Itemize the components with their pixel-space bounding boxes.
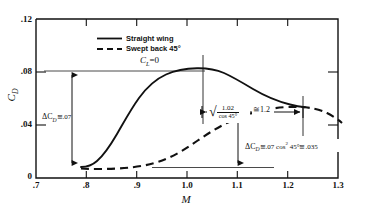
annotation-delta-cd-right: ΔCD≅.07 cos2 45°≅.035 (245, 141, 318, 153)
delta-left-symbol: ΔC (42, 112, 52, 121)
mach-shift-denominator: cos 45° (217, 113, 239, 120)
y-axis-title-sub: D (11, 88, 20, 94)
ytick-label-004: .04 (6, 120, 32, 129)
y-axis-title-main: C (5, 94, 17, 101)
annotation-mach-shift-formula: √1.02cos 45° (209, 103, 239, 120)
delta-right-tail: 45°≅.035 (288, 143, 318, 151)
y-axis-title: CD (6, 75, 20, 115)
delta-left-value: ≅.07 (57, 113, 72, 121)
delta-right-value: ≅.07 cos (260, 143, 286, 151)
mach-shift-fraction: 1.02cos 45° (217, 105, 239, 120)
xtick-label-6: 1.3 (326, 181, 350, 190)
xtick-label-4: 1.1 (225, 181, 249, 190)
xtick-label-5: 1.2 (276, 181, 300, 190)
x-axis-title: M (176, 194, 196, 205)
legend-condition-eq: =0 (150, 55, 160, 65)
delta-right-symbol: ΔC (245, 142, 255, 151)
xtick-label-1: .8 (74, 181, 98, 190)
plot-frame (36, 19, 338, 178)
top-axis-ticks (86, 19, 287, 26)
legend-label-swept-back: Swept back 45° (126, 45, 181, 53)
xtick-label-2: .9 (125, 181, 149, 190)
bottom-axis-ticks (86, 171, 287, 178)
annotation-mach-shift-result: ≅1.2 (253, 106, 270, 114)
legend-condition: CL=0 (140, 56, 159, 67)
ytick-label-0: 0 (6, 172, 32, 181)
ytick-label-012: .12 (6, 15, 32, 24)
xtick-label-3: 1.0 (175, 181, 199, 190)
chart-figure: .12 .08 .04 0 CD ​.7 .8 .9 1.0 1.1 1.2 1… (0, 0, 367, 214)
xtick-label-0: ​.7 (24, 181, 48, 190)
annotation-delta-cd-left: ΔCD≅.07 (42, 113, 71, 123)
legend-label-straight-wing: Straight wing (126, 35, 174, 43)
radical-icon: √ (209, 105, 217, 119)
